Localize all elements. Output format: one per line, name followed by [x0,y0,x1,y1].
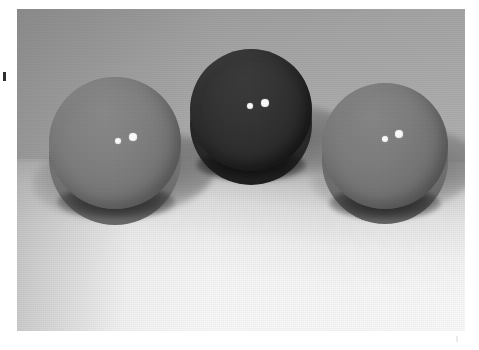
disc-left[interactable] [49,77,181,209]
disc-right[interactable] [322,83,448,209]
disc-right-face [322,83,448,209]
screenshot-canvas [0,0,479,350]
left-edge-tick-mark [3,72,6,81]
disc-middle-face [190,49,312,171]
photograph [17,9,465,331]
disc-middle[interactable] [190,49,312,171]
bottom-right-tick-mark [456,336,458,342]
